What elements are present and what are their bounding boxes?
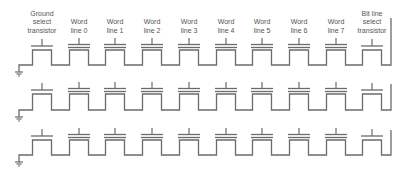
schematic <box>0 0 405 180</box>
